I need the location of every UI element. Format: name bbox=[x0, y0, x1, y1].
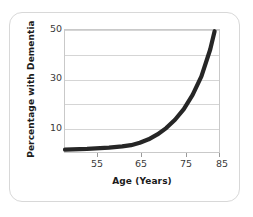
x-tick-label-65: 65 bbox=[126, 158, 156, 169]
y-tick-label-10: 10 bbox=[40, 123, 62, 133]
x-tick-label-75: 75 bbox=[171, 158, 201, 169]
plot-area bbox=[64, 29, 220, 153]
x-tick-label-55: 55 bbox=[82, 158, 112, 169]
x-tick-mark-75 bbox=[186, 153, 187, 157]
dementia-curve bbox=[65, 30, 219, 152]
x-axis-title: Age (Years) bbox=[64, 176, 220, 186]
x-tick-mark-55 bbox=[97, 153, 98, 157]
x-tick-mark-85 bbox=[219, 153, 220, 157]
y-axis-title: Percentage with Dementia bbox=[26, 19, 36, 159]
x-tick-mark-65 bbox=[141, 153, 142, 157]
y-axis-tick-labels: 50 30 10 bbox=[38, 0, 62, 217]
chart-figure: Percentage with Dementia 50 30 10 55 65 … bbox=[0, 0, 253, 217]
x-tick-label-85: 85 bbox=[207, 158, 237, 169]
y-tick-label-30: 30 bbox=[40, 73, 62, 83]
y-tick-label-50: 50 bbox=[40, 24, 62, 34]
